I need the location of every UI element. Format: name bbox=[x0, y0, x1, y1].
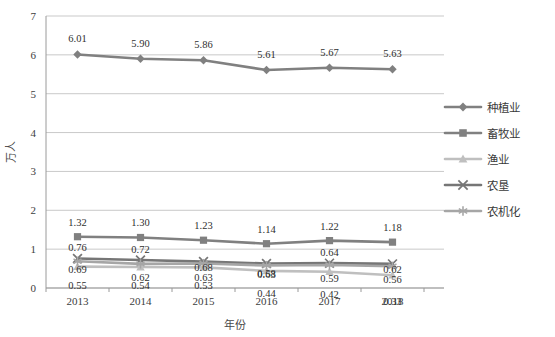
data-label: 1.30 bbox=[131, 217, 149, 228]
data-label: 0.58 bbox=[257, 268, 275, 279]
data-point-marker-square bbox=[459, 129, 467, 137]
data-label: 0.69 bbox=[68, 264, 86, 275]
data-label: 1.18 bbox=[383, 222, 401, 233]
data-label: 0.44 bbox=[257, 288, 276, 299]
legend-label: 种植业 bbox=[487, 101, 520, 114]
chart-container: 01234567 201320142015201620172018 6.015.… bbox=[0, 0, 555, 337]
legend-label: 农机化 bbox=[487, 205, 521, 218]
data-point-marker-square bbox=[389, 239, 396, 246]
data-point-marker-square bbox=[263, 240, 270, 247]
data-label: 0.63 bbox=[194, 272, 212, 283]
legend-label: 畜牧业 bbox=[487, 127, 520, 140]
y-tick-label: 1 bbox=[31, 243, 37, 255]
data-point-marker-square bbox=[200, 237, 207, 244]
data-label: 5.86 bbox=[194, 39, 212, 50]
line-chart: 01234567 201320142015201620172018 6.015.… bbox=[0, 0, 555, 337]
data-label: 1.32 bbox=[68, 217, 86, 228]
x-axis-title: 年份 bbox=[224, 318, 246, 331]
x-tick-label: 2013 bbox=[67, 295, 90, 307]
data-label: 0.55 bbox=[68, 280, 86, 291]
data-point-marker-square bbox=[137, 234, 144, 241]
y-tick-label: 2 bbox=[31, 204, 37, 216]
y-tick-label: 4 bbox=[31, 127, 37, 139]
data-label: 0.42 bbox=[320, 289, 338, 300]
y-tick-label: 5 bbox=[31, 88, 37, 100]
y-tick-label: 6 bbox=[31, 49, 37, 61]
data-label: 6.01 bbox=[68, 33, 86, 44]
data-label: 1.14 bbox=[257, 224, 276, 235]
data-label: 5.90 bbox=[131, 38, 149, 49]
data-point-marker-square bbox=[326, 237, 333, 244]
y-tick-label: 3 bbox=[31, 165, 37, 177]
data-label: 0.56 bbox=[383, 274, 401, 285]
data-label: 0.72 bbox=[131, 244, 149, 255]
data-label: 0.76 bbox=[68, 242, 86, 253]
x-tick-label: 2015 bbox=[193, 295, 216, 307]
data-label: 5.67 bbox=[320, 47, 338, 58]
data-label: 5.63 bbox=[383, 48, 401, 59]
legend-label: 渔业 bbox=[487, 154, 509, 166]
y-tick-label: 7 bbox=[31, 10, 37, 22]
y-tick-label: 0 bbox=[31, 282, 37, 294]
data-label: 5.61 bbox=[257, 49, 275, 60]
data-label: 0.62 bbox=[131, 272, 149, 283]
y-axis-title: 万人 bbox=[5, 141, 17, 163]
data-label: 1.22 bbox=[320, 221, 338, 232]
data-point-marker-square bbox=[74, 233, 81, 240]
x-tick-label: 2014 bbox=[130, 295, 153, 307]
data-label: 1.23 bbox=[194, 220, 212, 231]
data-label: 0.59 bbox=[320, 273, 338, 284]
data-label: 0.33 bbox=[383, 296, 401, 307]
legend-label: 农垦 bbox=[487, 179, 509, 192]
data-label: 0.64 bbox=[320, 247, 339, 258]
